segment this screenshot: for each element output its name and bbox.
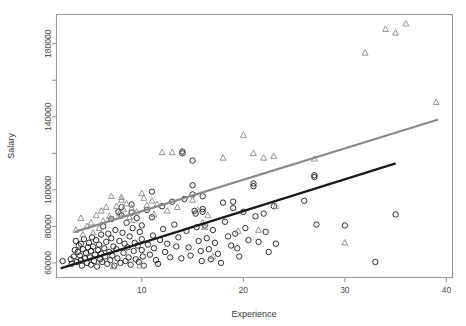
x-tick-label: 40 <box>442 285 452 295</box>
y-tick-label: 80000 <box>44 214 54 238</box>
y-axis-title: Salary <box>6 133 16 159</box>
y-tick-label: 60000 <box>44 251 54 275</box>
x-tick-label: 20 <box>239 285 249 295</box>
y-tick-label: 180000 <box>44 29 54 58</box>
scatter-plot-canvas: 10203040 6000080000100000140000180000 Ex… <box>0 0 466 326</box>
x-axis-title: Experience <box>231 309 276 319</box>
y-tick-label: 140000 <box>44 102 54 131</box>
y-tick-label: 100000 <box>44 175 54 204</box>
chart-figure: 10203040 6000080000100000140000180000 Ex… <box>0 0 466 326</box>
x-tick-label: 10 <box>137 285 147 295</box>
x-tick-label: 30 <box>340 285 350 295</box>
